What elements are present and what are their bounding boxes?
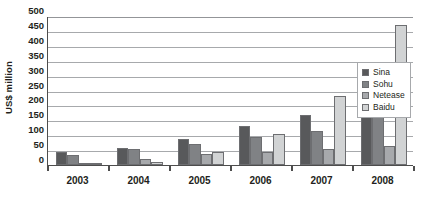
y-tick-label: 350 bbox=[14, 51, 44, 61]
y-tick-label: 0 bbox=[14, 155, 44, 165]
y-tick-label: 100 bbox=[14, 125, 44, 135]
x-axis-ticks bbox=[47, 166, 413, 172]
y-tick-label: 200 bbox=[14, 96, 44, 106]
bar bbox=[384, 146, 396, 165]
y-axis-title-text: US$ million bbox=[3, 61, 14, 114]
legend-item[interactable]: Sohu bbox=[362, 79, 405, 90]
bar-group bbox=[109, 17, 170, 165]
bar bbox=[189, 144, 201, 165]
bar bbox=[273, 134, 285, 165]
x-tick bbox=[291, 166, 293, 171]
x-tick-label: 2003 bbox=[66, 175, 88, 186]
x-tick-label: 2006 bbox=[249, 175, 271, 186]
bar bbox=[117, 148, 129, 165]
bar bbox=[323, 149, 335, 165]
bar bbox=[140, 159, 152, 165]
bar bbox=[201, 154, 213, 165]
y-axis-tick-labels: 050100150200250300350400450500 bbox=[14, 11, 44, 171]
bar-group bbox=[170, 17, 231, 165]
x-tick bbox=[47, 166, 49, 171]
bar bbox=[212, 152, 224, 165]
x-tick-label: 2005 bbox=[188, 175, 210, 186]
bar-group bbox=[48, 17, 109, 165]
y-tick-label: 50 bbox=[14, 140, 44, 150]
bar bbox=[334, 96, 346, 165]
bar bbox=[151, 162, 163, 165]
x-tick-label: 2007 bbox=[310, 175, 332, 186]
bar-group bbox=[231, 17, 292, 165]
legend-label: Baidu bbox=[373, 103, 395, 112]
y-tick-label: 450 bbox=[14, 21, 44, 31]
y-tick-label: 250 bbox=[14, 81, 44, 91]
bar bbox=[311, 131, 323, 165]
x-tick-label: 2004 bbox=[127, 175, 149, 186]
legend-item[interactable]: Netease bbox=[362, 90, 405, 101]
bar bbox=[128, 149, 140, 165]
y-tick-label: 300 bbox=[14, 66, 44, 76]
x-axis-tick-labels: 200320042005200620072008 bbox=[47, 175, 413, 191]
legend-swatch-icon bbox=[362, 104, 369, 111]
bar bbox=[372, 114, 384, 165]
legend-label: Netease bbox=[373, 91, 405, 100]
bar bbox=[67, 155, 79, 165]
bar bbox=[262, 152, 274, 165]
legend-label: Sohu bbox=[373, 80, 393, 89]
bar bbox=[300, 115, 312, 165]
y-tick-label: 500 bbox=[14, 6, 44, 16]
x-tick-label: 2008 bbox=[371, 175, 393, 186]
y-tick-label: 150 bbox=[14, 111, 44, 121]
bar bbox=[79, 163, 91, 165]
legend-swatch-icon bbox=[362, 92, 369, 99]
x-tick bbox=[230, 166, 232, 171]
legend-label: Sina bbox=[373, 68, 390, 77]
bar bbox=[250, 137, 262, 165]
y-tick-label: 400 bbox=[14, 36, 44, 46]
x-tick bbox=[169, 166, 171, 171]
legend-swatch-icon bbox=[362, 81, 369, 88]
x-tick bbox=[352, 166, 354, 171]
x-tick bbox=[413, 166, 415, 171]
legend-item[interactable]: Baidu bbox=[362, 102, 405, 113]
bar bbox=[178, 139, 190, 165]
bar-chart: US$ million 0501001502002503003504004505… bbox=[0, 0, 422, 215]
bar bbox=[239, 126, 251, 165]
x-tick bbox=[108, 166, 110, 171]
legend: SinaSohuNeteaseBaidu bbox=[357, 62, 411, 118]
bar bbox=[90, 163, 102, 165]
bar bbox=[56, 152, 68, 165]
legend-swatch-icon bbox=[362, 69, 369, 76]
bar-group bbox=[292, 17, 353, 165]
legend-item[interactable]: Sina bbox=[362, 67, 405, 78]
